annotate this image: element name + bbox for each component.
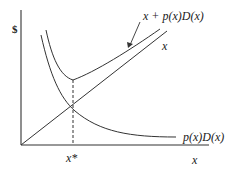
optimum-label: x* xyxy=(65,151,77,165)
x-axis-label: x xyxy=(191,153,198,167)
expected-damage-curve xyxy=(41,35,176,137)
expected-damage-label: p(x)D(x) xyxy=(182,130,224,144)
total-cost-curve xyxy=(46,29,160,80)
line-x xyxy=(21,31,167,145)
cost-diagram: $ x + p(x)D(x) x p(x)D(x) x* x xyxy=(0,0,236,170)
label-arrow-line xyxy=(130,22,140,45)
arrow-head-icon xyxy=(127,42,133,48)
line-x-label: x xyxy=(161,39,168,53)
y-axis-label: $ xyxy=(12,23,18,35)
total-cost-label: x + p(x)D(x) xyxy=(142,9,204,23)
